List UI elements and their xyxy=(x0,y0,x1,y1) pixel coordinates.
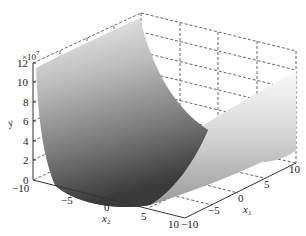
z-tick-8: 8 xyxy=(23,97,29,108)
x1-tick-10: 10 xyxy=(289,164,300,175)
z-tick-6: 6 xyxy=(23,116,29,127)
z-tick-12: 12 xyxy=(17,58,28,69)
x2-axis-label: x2 xyxy=(102,213,110,226)
x1-tick--10: −10 xyxy=(181,219,198,230)
z-tick-4: 4 xyxy=(23,136,29,147)
x2-subscript: 2 xyxy=(107,218,111,226)
x1-subscript: 1 xyxy=(248,209,252,217)
multiplier-exponent: 7 xyxy=(36,49,40,57)
x2-tick--10: −10 xyxy=(12,183,29,194)
x2-tick--5: −5 xyxy=(61,195,73,206)
z-tick-2: 2 xyxy=(23,155,29,166)
z-tick-10: 10 xyxy=(17,77,28,88)
x2-tick-5: 5 xyxy=(141,211,147,222)
x1-tick-5: 5 xyxy=(264,179,270,190)
x2-tick-10: 10 xyxy=(168,219,179,230)
x1-axis-label: x1 xyxy=(243,204,251,217)
surface-plot xyxy=(0,0,306,236)
x1-tick--5: −5 xyxy=(208,205,220,216)
